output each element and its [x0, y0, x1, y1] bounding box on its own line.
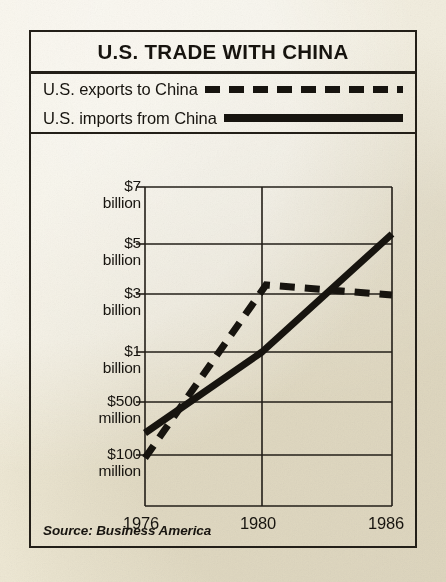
x-axis: 1976 1980 1986 — [31, 136, 415, 550]
source-caption: Source: Business America — [43, 523, 211, 538]
chart-figure-frame: U.S. TRADE WITH CHINA U.S. exports to Ch… — [29, 30, 417, 548]
legend-swatch-solid-icon — [224, 114, 403, 122]
legend-label-imports: U.S. imports from China — [43, 109, 217, 128]
page-title: U.S. TRADE WITH CHINA — [97, 40, 348, 64]
chart-title-band: U.S. TRADE WITH CHINA — [31, 32, 415, 74]
legend-swatch-dashed-icon — [205, 86, 403, 93]
x-tick-1986: 1986 — [368, 514, 404, 533]
x-tick-1980: 1980 — [240, 514, 276, 533]
legend-label-exports: U.S. exports to China — [43, 80, 198, 99]
legend-item-imports: U.S. imports from China — [31, 104, 415, 134]
legend-item-exports: U.S. exports to China — [31, 74, 415, 104]
plot-area: $7 billion $5 billion $3 billion $1 bill… — [31, 136, 415, 550]
